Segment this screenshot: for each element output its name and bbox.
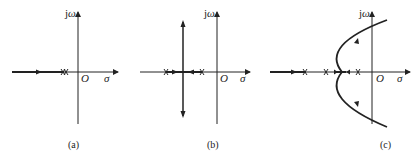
panel-b: jω O σ (b) [140,7,250,151]
arrow-right-icon [172,70,178,75]
arrow-left-icon [36,70,42,75]
arrow-down-icon [181,111,186,118]
panel-c: jω O σ (c) [270,7,410,151]
arrow-left-icon [188,70,194,75]
caption-b: (b) [207,139,219,151]
arrow-left-icon [346,70,350,75]
sigma-label: σ [240,72,246,84]
caption-c: (c) [380,139,391,151]
imag-axis-label: jω [64,7,76,19]
arrow-up-icon [181,20,186,27]
origin-label: O [376,72,384,84]
imag-axis-label: jω [358,7,370,19]
origin-label: O [81,72,89,84]
arrow-right-icon [334,70,338,75]
origin-label: O [220,72,228,84]
sigma-label: σ [397,72,403,84]
caption-a: (a) [68,139,79,151]
root-locus-figure: jω O σ (a) jω O σ (b) jω O [0,0,418,159]
sigma-label: σ [104,72,110,84]
panel-a: jω O σ (a) [12,7,118,151]
arrow-down-right-icon [354,101,359,107]
imag-axis-label: jω [203,7,215,19]
arrow-up-right-icon [354,38,359,44]
arrow-left-icon [291,70,297,75]
